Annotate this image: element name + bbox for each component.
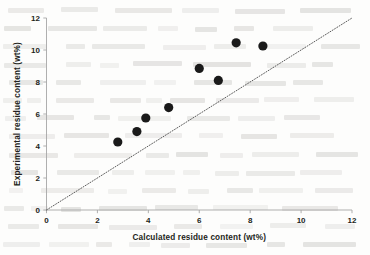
y-tick-label: 2 (36, 174, 41, 183)
data-point (195, 64, 204, 73)
y-tick-label: 8 (36, 78, 41, 87)
x-tick-label: 10 (297, 216, 306, 225)
x-tick-label: 8 (248, 216, 253, 225)
data-point (164, 103, 173, 112)
scatter-plot: 024681012024681012Calculated residue con… (0, 0, 370, 255)
x-tick-label: 0 (44, 216, 49, 225)
y-tick-label: 10 (31, 46, 40, 55)
data-point (214, 76, 223, 85)
y-tick-label: 6 (36, 110, 41, 119)
parity-line (47, 18, 353, 210)
y-axis-title: Experimental residue content (wt%) (13, 42, 22, 186)
data-point (232, 38, 241, 47)
y-tick-label: 12 (31, 14, 40, 23)
data-series-residue-content-samples (113, 38, 267, 146)
x-tick-label: 6 (197, 216, 202, 225)
figure-container: 024681012024681012Calculated residue con… (0, 0, 370, 255)
x-tick-label: 4 (146, 216, 151, 225)
data-point (141, 113, 150, 122)
x-axis-title: Calculated residue content (wt%) (132, 233, 266, 242)
y-tick-label: 0 (36, 206, 41, 215)
data-point (258, 41, 267, 50)
data-point (113, 137, 122, 146)
x-tick-label: 2 (95, 216, 100, 225)
data-point (132, 127, 141, 136)
y-tick-label: 4 (36, 142, 41, 151)
x-tick-label: 12 (348, 216, 357, 225)
